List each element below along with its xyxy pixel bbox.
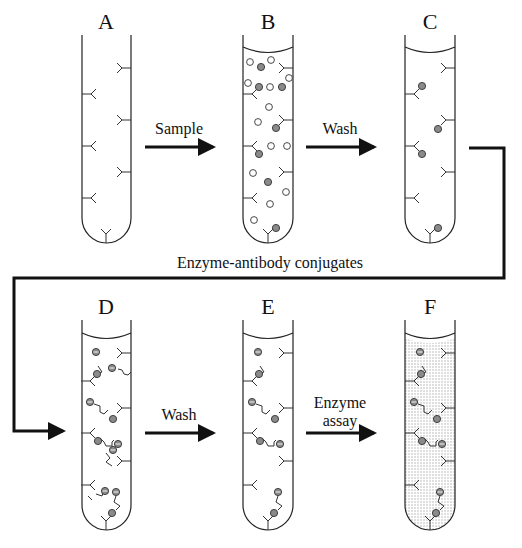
tube-c-antibodies xyxy=(405,63,455,243)
tube-label-a: A xyxy=(98,9,114,35)
tube-e-complexes xyxy=(243,348,293,530)
tube-a xyxy=(82,35,131,243)
meniscus xyxy=(243,333,293,339)
tube-c xyxy=(405,35,455,243)
tube-e xyxy=(243,320,293,530)
step-label-conjugates: Enzyme-antibody conjugates xyxy=(177,253,363,272)
meniscus xyxy=(82,333,131,339)
tube-label-f: F xyxy=(424,294,436,320)
diagram-canvas xyxy=(0,0,522,548)
meniscus xyxy=(243,47,293,53)
tube-c-antigens xyxy=(418,82,441,231)
tube-a-antibodies xyxy=(82,63,131,243)
tube-label-d: D xyxy=(98,294,114,320)
tube-b-molecules xyxy=(245,57,293,232)
tube-d xyxy=(82,320,131,530)
tube-d-complexes xyxy=(81,348,131,530)
tube-label-e: E xyxy=(261,294,274,320)
step-label-enzyme: Enzyme xyxy=(314,393,366,412)
tube-b xyxy=(243,35,293,243)
step-label-assay: assay xyxy=(323,411,358,430)
step-label-sample: Sample xyxy=(155,119,203,138)
elisa-diagram: A B C D E F Sample Wash Enzyme-antibody … xyxy=(0,0,522,548)
tube-label-b: B xyxy=(261,9,276,35)
tube-label-c: C xyxy=(423,9,438,35)
meniscus xyxy=(405,47,455,53)
step-label-wash-2: Wash xyxy=(161,405,196,424)
tube-d-unbound-conjugates xyxy=(88,364,131,500)
step-label-wash-1: Wash xyxy=(322,119,357,138)
tube-f-substrate-fill xyxy=(405,338,455,530)
meniscus xyxy=(405,333,455,339)
enzyme-labels xyxy=(248,348,283,495)
